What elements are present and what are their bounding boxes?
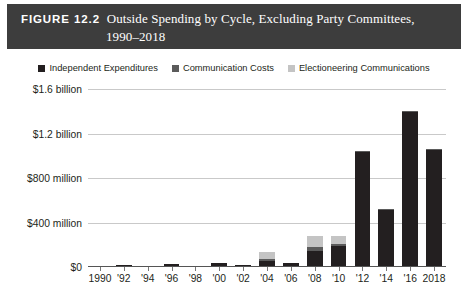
figure-number: FIGURE 12.2 <box>21 13 100 25</box>
bar-segment[interactable] <box>307 251 323 267</box>
bar-group[interactable] <box>402 111 418 267</box>
bar-group[interactable] <box>378 209 394 267</box>
x-axis-tick-label: '04 <box>260 273 273 284</box>
legend-swatch-icon <box>38 65 45 72</box>
x-axis-tick-label: '00 <box>213 273 226 284</box>
x-axis-tick-label: '06 <box>284 273 297 284</box>
y-axis-tick-label: $1.6 billion <box>33 84 82 95</box>
bar-segment[interactable] <box>378 210 394 267</box>
x-axis-tick <box>195 267 196 271</box>
legend-label: Electioneering Communications <box>299 63 430 73</box>
bar-chart: $0$400 million$800 million$1.2 billion$1… <box>0 84 468 296</box>
bar-group[interactable] <box>259 252 275 267</box>
x-axis-tick <box>362 267 363 271</box>
x-axis-tick <box>148 267 149 271</box>
x-axis-tick-label: '98 <box>189 273 202 284</box>
x-axis-tick-label: '92 <box>117 273 130 284</box>
figure-title-bar: FIGURE 12.2 Outside Spending by Cycle, E… <box>7 4 461 49</box>
bar-group[interactable] <box>307 236 323 267</box>
x-axis-tick-label: '14 <box>380 273 393 284</box>
legend-item-communication-costs: Communication Costs <box>172 63 274 73</box>
x-axis-tick <box>267 267 268 271</box>
y-axis-tick-label: $1.2 billion <box>33 128 82 139</box>
bar-segment[interactable] <box>331 236 347 244</box>
x-axis-tick-label: '96 <box>165 273 178 284</box>
y-axis-labels: $0$400 million$800 million$1.2 billion$1… <box>0 89 82 267</box>
x-axis-tick <box>315 267 316 271</box>
figure-caption-line-2: 1990–2018 <box>106 29 451 45</box>
x-axis-tick-label: '08 <box>308 273 321 284</box>
x-axis-tick-label: '16 <box>403 273 416 284</box>
x-axis-tick <box>339 267 340 271</box>
x-axis-tick <box>434 267 435 271</box>
bar-series-container <box>88 89 446 267</box>
legend-label: Independent Expenditures <box>49 63 158 73</box>
bar-segment[interactable] <box>259 252 275 259</box>
bar-segment[interactable] <box>355 152 371 267</box>
x-axis-tick <box>243 267 244 271</box>
x-axis-tick <box>386 267 387 271</box>
x-axis-tick <box>219 267 220 271</box>
x-axis-tick-label: 2018 <box>423 273 446 284</box>
bar-group[interactable] <box>331 236 347 267</box>
x-axis-labels: 1990'92'94'96'98'00'02'04'06'08'10'12'14… <box>88 273 446 289</box>
y-axis-tick-label: $400 million <box>27 217 82 228</box>
x-axis-tick <box>291 267 292 271</box>
legend-swatch-icon <box>288 65 295 72</box>
legend-swatch-icon <box>172 65 179 72</box>
bar-segment[interactable] <box>307 236 323 247</box>
x-axis-tick <box>410 267 411 271</box>
x-axis-tick <box>124 267 125 271</box>
bar-group[interactable] <box>355 151 371 267</box>
figure-title-line-1: FIGURE 12.2 Outside Spending by Cycle, E… <box>21 11 451 28</box>
chart-legend: Independent Expenditures Communication C… <box>0 60 468 76</box>
x-axis-tick <box>100 267 101 271</box>
x-axis-tick-label: 1990 <box>88 273 111 284</box>
x-axis-tick-label: '94 <box>141 273 154 284</box>
x-axis-tick-label: '02 <box>236 273 249 284</box>
y-axis-tick-label: $0 <box>71 262 82 273</box>
plot-area <box>88 89 446 267</box>
legend-item-independent-expenditures: Independent Expenditures <box>38 63 158 73</box>
figure-caption-line-1: Outside Spending by Cycle, Excluding Par… <box>107 11 415 26</box>
bar-group[interactable] <box>426 149 442 267</box>
legend-label: Communication Costs <box>183 63 274 73</box>
legend-item-electioneering-communications: Electioneering Communications <box>288 63 430 73</box>
x-axis-ticks <box>88 267 446 272</box>
x-axis-tick-label: '10 <box>332 273 345 284</box>
y-axis-tick-label: $800 million <box>27 173 82 184</box>
x-axis-tick <box>172 267 173 271</box>
bar-segment[interactable] <box>331 246 347 267</box>
x-axis-tick-label: '12 <box>356 273 369 284</box>
bar-segment[interactable] <box>426 150 442 267</box>
bar-segment[interactable] <box>402 112 418 267</box>
